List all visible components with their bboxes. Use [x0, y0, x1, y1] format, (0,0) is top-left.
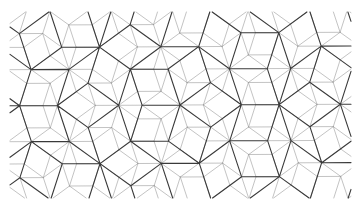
penrose-tiling — [0, 0, 361, 209]
